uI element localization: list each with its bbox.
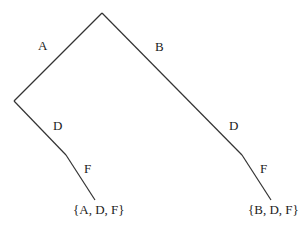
edge-label-b-f: F (260, 161, 267, 176)
edge-label-b: B (155, 39, 164, 54)
edge-label-a-d: D (53, 118, 62, 133)
leaf-label-bdf: {B, D, F} (248, 202, 299, 217)
tree-diagram: A B D F D F {A, D, F} {B, D, F} (0, 0, 307, 225)
leaf-label-adf: {A, D, F} (73, 202, 125, 217)
edge-b (102, 13, 242, 155)
tree-canvas: A B D F D F {A, D, F} {B, D, F} (0, 0, 307, 225)
edge-label-a: A (38, 38, 48, 53)
edge-label-b-d: D (229, 118, 238, 133)
edge-label-a-f: F (84, 161, 91, 176)
edge-a (14, 13, 102, 101)
